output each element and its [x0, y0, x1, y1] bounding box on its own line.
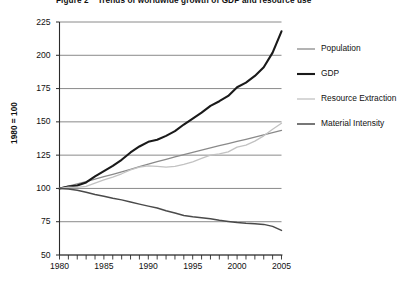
- y-tick-label: 200: [21, 50, 51, 60]
- x-tick-label: 1995: [173, 261, 213, 271]
- legend-label-gdp: GDP: [321, 68, 339, 78]
- legend-label-population: Population: [321, 43, 361, 53]
- series-line-population: [60, 130, 282, 188]
- y-tick-label: 75: [21, 216, 51, 226]
- y-tick-label: 225: [21, 17, 51, 27]
- legend-label-material-intensity: Material Intensity: [321, 118, 384, 128]
- y-tick-label: 175: [21, 83, 51, 93]
- x-tick-label: 2000: [217, 261, 257, 271]
- figure-container: Figure 2Trends of worldwide growth of GD…: [0, 0, 408, 284]
- legend-label-resource-extraction: Resource Extraction: [321, 93, 396, 103]
- y-tick-label: 125: [21, 150, 51, 160]
- x-tick-label: 1980: [40, 261, 80, 271]
- y-tick-label: 150: [21, 116, 51, 126]
- series-line-material-intensity: [60, 188, 282, 230]
- x-tick-label: 1990: [128, 261, 168, 271]
- y-tick-label: 50: [21, 250, 51, 260]
- x-tick-label: 2005: [262, 261, 302, 271]
- x-tick-label: 1985: [84, 261, 124, 271]
- y-tick-label: 100: [21, 183, 51, 193]
